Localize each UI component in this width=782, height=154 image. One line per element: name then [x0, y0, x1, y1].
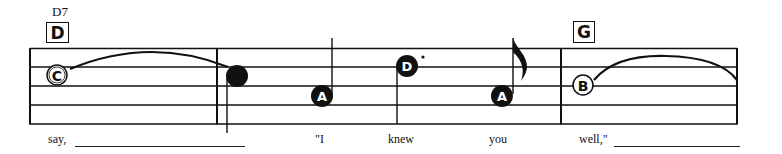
svg-text:D: D	[402, 59, 413, 74]
lyric-extender-1	[75, 146, 245, 147]
lyric-you: you	[489, 132, 507, 147]
tie-curve-b	[594, 56, 737, 80]
svg-text:A: A	[317, 89, 327, 104]
music-notation-excerpt: D7 D G C	[0, 0, 782, 154]
note-b: B	[573, 75, 593, 95]
note-tied-filled	[226, 65, 248, 133]
lyric-extender-2	[614, 146, 740, 147]
lyric-say: say,	[48, 132, 66, 147]
note-c: C	[47, 65, 67, 85]
staff: C A D A	[0, 0, 782, 154]
svg-text:C: C	[52, 68, 62, 84]
note-d-dotted: D	[396, 55, 425, 124]
lyric-i: "I	[315, 132, 324, 147]
lyric-knew: knew	[388, 132, 414, 147]
svg-text:B: B	[578, 78, 589, 94]
augmentation-dot	[421, 55, 424, 58]
svg-text:A: A	[497, 89, 507, 104]
lyric-well: well,"	[579, 132, 608, 147]
eighth-flag	[513, 38, 527, 81]
